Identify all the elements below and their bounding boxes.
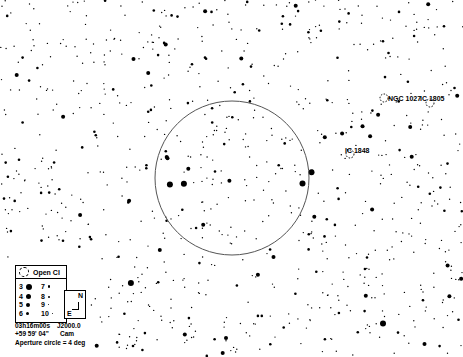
constellation: Cam	[60, 330, 74, 337]
object-label-ic1805: IC 1805	[420, 95, 445, 102]
object-label-ngc1027: NGC 1027	[388, 95, 421, 102]
mag-dot-icon	[48, 285, 51, 288]
center-dec: +59 59' 04"	[15, 330, 49, 337]
legend-title: Open Cl	[33, 269, 60, 276]
mag-row-9: 9	[41, 301, 49, 308]
legend-box: Open Cl 3 7 4 8 5 9 6 10	[15, 265, 67, 323]
mag-dot-icon	[52, 313, 53, 314]
mag-row-10: 10	[41, 310, 53, 317]
legend-header: Open Cl	[16, 266, 66, 279]
aperture-text: Aperture circle = 4 deg	[15, 339, 85, 346]
open-cluster-icon	[19, 267, 29, 277]
compass-east: E	[67, 310, 72, 317]
mag-row-3: 3	[19, 283, 32, 290]
epoch: J2000.0	[57, 322, 81, 329]
mag-dot-icon	[48, 304, 50, 306]
mag-dot-icon	[26, 303, 30, 307]
mag-row-5: 5	[19, 301, 30, 308]
mag-dot-icon	[26, 284, 32, 290]
mag-row-6: 6	[19, 310, 29, 317]
mag-row-8: 8	[41, 293, 50, 300]
open-cluster-marker-icon	[380, 94, 388, 102]
mag-dot-icon	[26, 294, 32, 300]
compass-box: N E	[64, 290, 86, 319]
mag-row-7: 7	[41, 283, 50, 290]
center-ra: 03h16m00s	[15, 322, 50, 329]
compass-north: N	[78, 292, 83, 299]
compass-arrows-icon	[72, 302, 79, 310]
mag-row-4: 4	[19, 293, 31, 300]
object-label-ic1848: IC 1848	[345, 147, 370, 154]
aperture-circle	[155, 101, 309, 255]
mag-dot-icon	[48, 296, 50, 298]
mag-dot-icon	[26, 312, 29, 315]
